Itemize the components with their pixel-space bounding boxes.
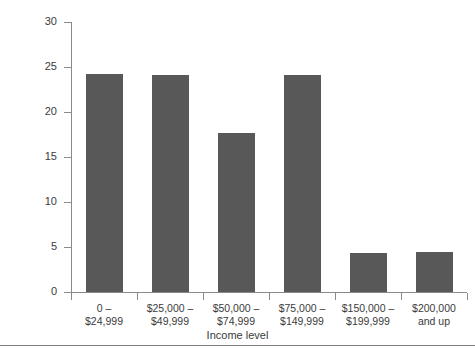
y-axis-label-container: Percent of the population [0, 0, 30, 352]
x-axis-tick [137, 293, 138, 300]
x-axis-category-label: $75,000 –$149,999 [269, 302, 335, 328]
y-axis-tick-label: 30 [45, 15, 57, 27]
y-axis-tick-label: 10 [45, 195, 57, 207]
x-axis-category-label-line: $49,999 [137, 315, 203, 328]
y-axis-tick-label: 20 [45, 105, 57, 117]
bar[interactable] [218, 133, 255, 292]
x-axis-category-label-line: $199,999 [335, 315, 401, 328]
x-axis-category-label-line: $200,000 [401, 302, 467, 315]
bar[interactable] [284, 75, 321, 292]
footer-divider [0, 345, 475, 346]
x-axis-tick [71, 293, 72, 300]
y-axis-tick-label: 25 [45, 60, 57, 72]
x-axis-tick [335, 293, 336, 300]
x-axis-category-label-line: and up [401, 315, 467, 328]
bars-layer [71, 22, 467, 292]
x-axis-category-label-line: $74,999 [203, 315, 269, 328]
bar[interactable] [416, 252, 453, 292]
bar[interactable] [152, 75, 189, 292]
x-axis-label: Income level [0, 329, 475, 341]
x-axis-category-label-line: $75,000 – [269, 302, 335, 315]
x-axis-tick [203, 293, 204, 300]
x-axis-category-label-line: $25,000 – [137, 302, 203, 315]
x-axis-category-label: $50,000 –$74,999 [203, 302, 269, 328]
x-axis-tick [467, 293, 468, 300]
x-axis-tick [401, 293, 402, 300]
x-axis-tick [269, 293, 270, 300]
bar[interactable] [350, 253, 387, 292]
x-axis-category-label-line: $149,999 [269, 315, 335, 328]
x-axis-category-label-line: $24,999 [71, 315, 137, 328]
bar-chart-figure: Percent of the population 051015202530 0… [0, 0, 475, 352]
y-axis-tick-label: 5 [51, 240, 57, 252]
x-axis-category-label-line: $150,000 – [335, 302, 401, 315]
x-axis-category-label-line: 0 – [71, 302, 137, 315]
x-axis-category-label: $25,000 –$49,999 [137, 302, 203, 328]
y-axis-tick-label: 0 [51, 285, 57, 297]
bar[interactable] [86, 74, 123, 292]
x-axis-category-label-line: $50,000 – [203, 302, 269, 315]
x-axis-category-label: 0 –$24,999 [71, 302, 137, 328]
y-axis-tick-label: 15 [45, 150, 57, 162]
x-axis-category-label: $150,000 –$199,999 [335, 302, 401, 328]
x-axis-category-label: $200,000and up [401, 302, 467, 328]
